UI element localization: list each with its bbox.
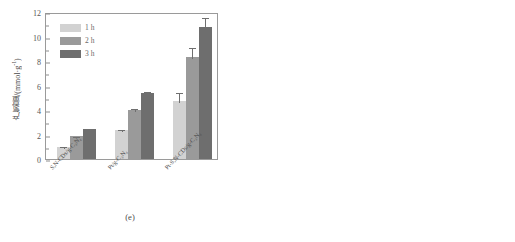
y-axis-title-e-main: 产氢量/(mmol·g: [13, 66, 22, 120]
bar: [128, 110, 141, 159]
y-tick-label: 4: [37, 108, 46, 116]
error-bar: [205, 18, 206, 28]
y-axis-title-e: 产氢量/(mmol·g-1): [11, 34, 23, 144]
y-tick-label: 12: [33, 10, 46, 18]
y-tick-label: 10: [33, 35, 46, 43]
y-tick-label: 0: [37, 157, 46, 165]
y-tick-label: 2: [37, 133, 46, 141]
y-tick-mark: [46, 161, 50, 162]
panel-e: 产氢量/(mmol·g-1) 024681012 1 h 2 h 3 h: [0, 0, 258, 242]
y-tick-label: 6: [37, 84, 46, 92]
error-bar-cap: [189, 48, 196, 49]
error-bar-cap: [131, 109, 138, 110]
panel-caption-e: (e): [100, 212, 160, 222]
bar: [199, 27, 212, 159]
y-tick-label: 8: [37, 59, 46, 67]
error-bar-cap: [144, 92, 151, 93]
bar: [83, 129, 96, 159]
panel-f: 产氢量/(mmol·g-1) 05101520 12345678910 时间/h…: [258, 0, 515, 242]
error-bar-cap: [176, 93, 183, 94]
figure-container: 产氢量/(mmol·g-1) 024681012 1 h 2 h 3 h: [0, 0, 515, 242]
error-bar-cap: [86, 129, 93, 130]
y-axis-title-e-sup: -1: [11, 61, 17, 66]
error-bar-cap: [118, 130, 125, 131]
error-bar-cap: [202, 18, 209, 19]
error-bar: [192, 48, 193, 60]
error-bar: [179, 93, 180, 103]
y-axis-title-e-tail: ): [13, 58, 22, 61]
bar: [141, 93, 154, 159]
